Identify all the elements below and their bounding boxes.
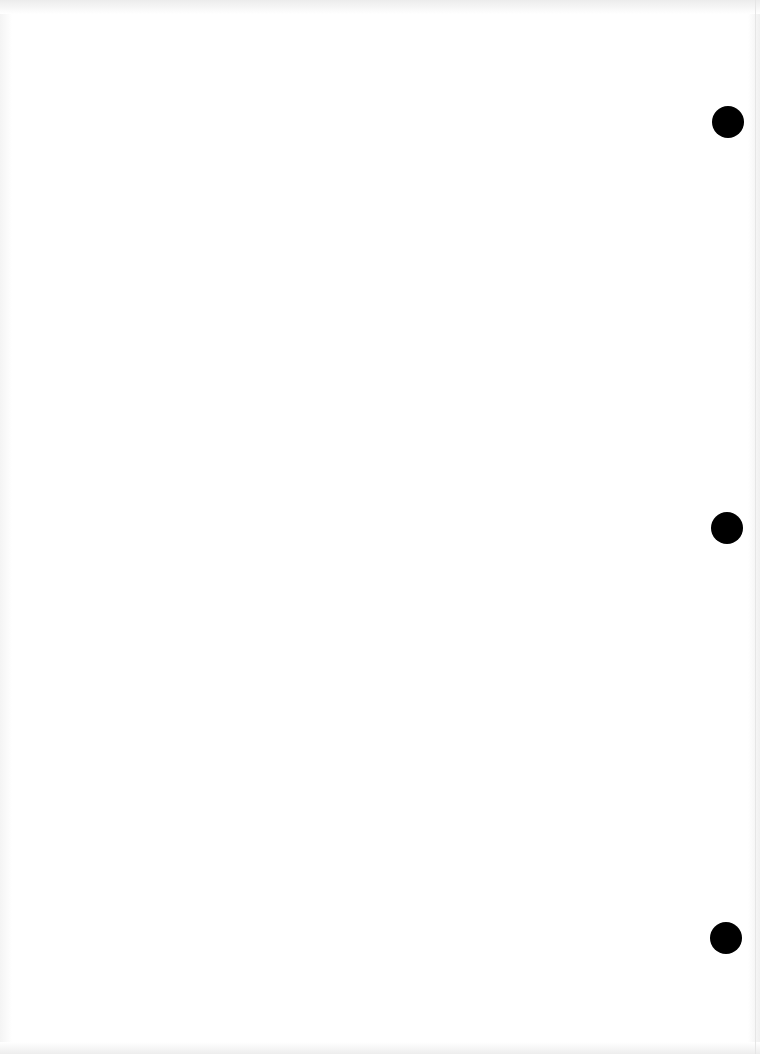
faint-bleed-through	[180, 262, 186, 278]
faint-bleed-through	[210, 510, 216, 526]
scanned-page	[0, 0, 760, 1054]
page-top-edge-shadow	[0, 0, 760, 14]
page-right-edge	[755, 0, 756, 1054]
page-bottom-edge-shadow	[0, 1042, 760, 1054]
punch-hole-middle	[711, 512, 743, 544]
punch-hole-bottom	[710, 922, 742, 954]
punch-hole-top	[712, 106, 744, 138]
